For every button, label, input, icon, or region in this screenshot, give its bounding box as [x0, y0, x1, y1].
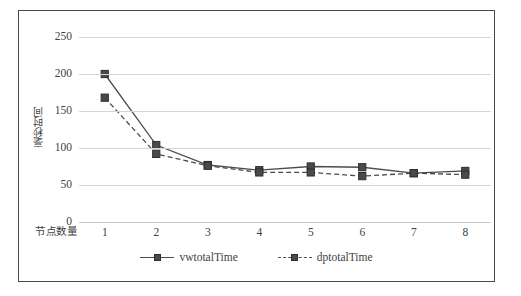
data-point-marker — [153, 150, 160, 157]
legend-label: vwtotalTime — [179, 251, 237, 263]
y-axis-tick-label: 50 — [61, 179, 73, 191]
chart-legend: vwtotalTimedptotalTime — [19, 251, 494, 263]
gridline — [79, 37, 491, 38]
data-point-marker — [410, 170, 417, 177]
data-point-marker — [359, 173, 366, 180]
legend-label: dptotalTime — [317, 251, 373, 263]
gridline — [79, 148, 491, 149]
x-axis-tick-label: 4 — [256, 227, 262, 239]
series-line-dptotalTime — [105, 98, 466, 176]
series-line-vwtotalTime — [105, 74, 466, 173]
y-axis-tick-label: 150 — [55, 105, 72, 117]
x-axis-tick-label: 8 — [462, 227, 468, 239]
gridline — [79, 111, 491, 112]
legend-swatch-icon — [278, 252, 312, 263]
x-axis-tick-label: 7 — [411, 227, 417, 239]
y-axis-title: 毫秒时间 — [33, 107, 47, 147]
plot-area: 050100150200250 — [79, 37, 491, 222]
legend-entry-vwtotalTime[interactable]: vwtotalTime — [140, 251, 237, 263]
legend-marker-icon — [154, 254, 161, 261]
legend-swatch-icon — [140, 252, 174, 263]
x-axis-tick-label: 2 — [153, 227, 159, 239]
data-point-marker — [307, 169, 314, 176]
data-point-marker — [204, 162, 211, 169]
series-plot — [79, 37, 491, 222]
chart-figure: 毫秒时间 050100150200250 节点数量 12345678 vwtot… — [18, 10, 495, 282]
gridline — [79, 222, 491, 223]
x-axis-tick-label: 5 — [308, 227, 314, 239]
x-axis-tick-label: 1 — [102, 227, 108, 239]
gridline — [79, 185, 491, 186]
x-axis-tick-label: 6 — [359, 227, 365, 239]
y-axis-tick-label: 250 — [55, 31, 72, 43]
data-point-marker — [101, 94, 108, 101]
x-axis-tick-labels: 12345678 — [79, 227, 491, 245]
y-axis-tick-label: 200 — [55, 68, 72, 80]
legend-marker-icon — [291, 254, 298, 261]
data-point-marker — [462, 171, 469, 178]
data-point-marker — [256, 169, 263, 176]
gridline — [79, 74, 491, 75]
x-axis-tick-label: 3 — [205, 227, 211, 239]
x-axis-title: 节点数量 — [35, 227, 77, 238]
legend-entry-dptotalTime[interactable]: dptotalTime — [278, 251, 373, 263]
data-point-marker — [359, 164, 366, 171]
y-axis-tick-label: 100 — [55, 142, 72, 154]
